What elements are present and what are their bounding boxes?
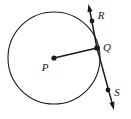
geometry-figure-container: P Q R S — [0, 0, 131, 119]
point-dot-r — [90, 19, 95, 24]
point-label-r: R — [97, 9, 105, 21]
arrowhead-down-icon — [109, 102, 114, 110]
point-dot-s — [106, 88, 111, 93]
point-dot-p — [51, 55, 56, 60]
point-label-s: S — [114, 86, 120, 98]
tangent-ray-upper — [89, 8, 97, 48]
circle-tangent-diagram: P Q R S — [0, 0, 131, 119]
point-label-p: P — [41, 61, 49, 73]
radius-segment-pq — [54, 48, 97, 58]
tangent-ray-lower — [97, 48, 113, 106]
point-dot-q — [94, 45, 100, 51]
point-label-q: Q — [103, 41, 111, 53]
arrowhead-up-icon — [87, 4, 92, 12]
